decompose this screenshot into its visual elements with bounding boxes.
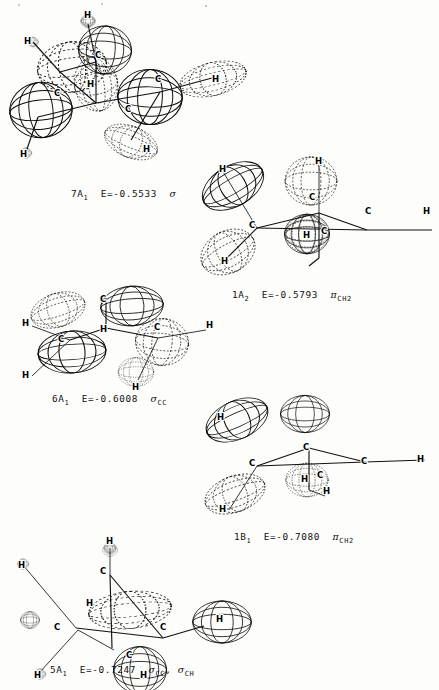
atom-label-c: C xyxy=(303,442,309,452)
atom-label-h: H xyxy=(34,670,41,680)
atom-label-c: C xyxy=(160,622,166,632)
atom-label-c: C xyxy=(126,650,132,660)
atom-label-c: C xyxy=(361,456,367,466)
atom-label-h: H xyxy=(216,614,223,624)
atom-label-h: H xyxy=(84,10,91,20)
atom-label-h: H xyxy=(20,149,27,159)
caption-energy-prefix: E= xyxy=(262,289,275,300)
panel-5a1-caption: 5A1 E=-0.7247 σCC, σCH xyxy=(50,664,194,678)
atom-label-c: C xyxy=(365,206,371,216)
negative-phase-lobes xyxy=(26,285,191,386)
caption-symmetry-sub: CC xyxy=(158,399,168,407)
caption-orbital-sub: 1 xyxy=(65,399,70,407)
caption-symmetry-sub: CH2 xyxy=(337,295,351,303)
atom-label-c: C xyxy=(154,322,160,332)
atom-label-h: H xyxy=(100,324,107,334)
atom-label-h: H xyxy=(221,256,228,266)
atom-label-c: C xyxy=(321,226,327,236)
atom-label-h: H xyxy=(206,320,213,330)
atom-label-h: H xyxy=(87,79,94,89)
atom-label-h: H xyxy=(219,164,226,174)
atom-label-c: C xyxy=(95,50,101,60)
atom-label-h: H xyxy=(132,382,139,392)
caption-symmetry-symbol: σ xyxy=(151,393,158,404)
positive-phase-lobes xyxy=(7,15,183,158)
atom-label-h: H xyxy=(212,74,219,84)
atom-label-h: H xyxy=(323,486,330,496)
caption-symmetry-symbol: σ xyxy=(149,664,156,675)
atom-label-h: H xyxy=(423,206,430,216)
atom-label-c: C xyxy=(54,88,60,98)
atom-label-c: C xyxy=(317,470,323,480)
panel-1a2-plot: H H C C C H H C H xyxy=(185,148,439,288)
atom-label-c: C xyxy=(100,566,106,576)
caption-symmetry-sub-2: CH xyxy=(185,670,195,678)
atom-label-h: H xyxy=(86,598,93,608)
panel-6a1-caption: 6A1 E=-0.6008 σCC xyxy=(52,393,167,407)
caption-symmetry-symbol: σ xyxy=(170,188,177,199)
atom-label-h: H xyxy=(301,474,308,484)
caption-energy: -0.5533 xyxy=(113,188,157,199)
caption-symmetry-symbol-2: σ xyxy=(178,664,185,675)
atom-label-c: C xyxy=(155,74,161,84)
atom-label-c: C xyxy=(249,458,255,468)
atom-label-h: H xyxy=(22,370,29,380)
atom-label-h: H xyxy=(22,318,29,328)
atom-label-c: C xyxy=(54,622,60,632)
caption-energy: -0.7080 xyxy=(276,531,320,542)
caption-orbital: 5A xyxy=(50,664,63,675)
atom-label-h: H xyxy=(18,560,25,570)
panel-1b1-plot: H C C C H H C H H xyxy=(195,398,439,530)
atom-label-group: H H C C C H H C H xyxy=(219,156,430,266)
caption-separator: , xyxy=(165,664,178,675)
panel-5a1-plot: H H C H C C H H C H xyxy=(18,530,268,662)
atom-label-h: H xyxy=(143,144,150,154)
caption-energy-prefix: E= xyxy=(80,664,93,675)
caption-orbital: 6A xyxy=(52,393,65,404)
caption-energy: -0.5793 xyxy=(274,289,318,300)
panel-6a1-plot: C H H C C H H H xyxy=(10,268,250,396)
atom-label-h: H xyxy=(303,230,310,240)
atom-label-h: H xyxy=(217,412,224,422)
atom-label-h: H xyxy=(417,454,424,464)
atom-label-h: H xyxy=(315,156,322,166)
caption-symmetry-sub: CH2 xyxy=(339,537,353,545)
negative-phase-lobes xyxy=(87,543,173,632)
caption-orbital-sub: 1 xyxy=(63,670,68,678)
caption-energy: -0.7247 xyxy=(92,664,136,675)
molecular-orbital-figure: H H C H C C H C H H 7A1 E=-0.5533 σ xyxy=(0,0,439,690)
panel-7a1-caption: 7A1 E=-0.5533 σ xyxy=(71,188,177,202)
caption-energy: -0.6008 xyxy=(94,393,138,404)
atom-label-h: H xyxy=(106,536,113,546)
bond-network xyxy=(23,548,204,672)
atom-label-c: C xyxy=(309,192,315,202)
atom-label-c: C xyxy=(125,104,131,114)
caption-orbital: 7A xyxy=(71,188,84,199)
caption-symmetry-sub: CC xyxy=(156,670,166,678)
atom-label-c: C xyxy=(249,220,255,230)
atom-label-c: C xyxy=(100,294,106,304)
caption-energy-prefix: E= xyxy=(101,188,114,199)
atom-label-c: C xyxy=(58,334,64,344)
caption-orbital-sub: 1 xyxy=(84,194,89,202)
caption-energy-prefix: E= xyxy=(82,393,95,404)
atom-label-h: H xyxy=(219,504,226,514)
atom-label-h: H xyxy=(24,36,31,46)
